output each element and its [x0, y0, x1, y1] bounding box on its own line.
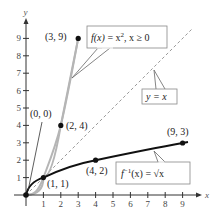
point-1-1: [41, 175, 46, 180]
inverse-function-callout: f−1(x) = √x: [116, 151, 190, 184]
identity-callout-text: y = x: [145, 91, 167, 102]
label-point-0-0: (0, 0): [30, 108, 52, 120]
label-point-9-3: (9, 3): [167, 126, 189, 138]
identity-callout: y = x: [142, 70, 177, 104]
inverse-function-graph: x y 1 2 3 4 5 6 7 8 9 1 2 3: [0, 0, 213, 214]
svg-text:3: 3: [76, 199, 81, 209]
svg-text:5: 5: [111, 199, 116, 209]
label-point-2-4: (2, 4): [66, 120, 88, 132]
svg-text:f(x) = x2, x ≥ 0: f(x) = x2, x ≥ 0: [91, 31, 150, 44]
svg-text:9: 9: [180, 199, 185, 209]
svg-text:8: 8: [163, 199, 168, 209]
y-tick-labels: 1 2 3 4 5 6 7 8 9: [17, 33, 22, 182]
point-0-0: [23, 192, 29, 198]
svg-text:1: 1: [17, 173, 22, 183]
svg-text:1: 1: [41, 199, 46, 209]
point-4-2: [93, 158, 98, 163]
svg-text:8: 8: [17, 51, 22, 61]
svg-text:7: 7: [17, 68, 22, 78]
svg-text:4: 4: [93, 199, 98, 209]
svg-text:4: 4: [17, 120, 22, 130]
svg-text:6: 6: [17, 86, 22, 96]
svg-text:7: 7: [146, 199, 151, 209]
label-point-4-2: (4, 2): [86, 165, 108, 177]
square-function-callout: f(x) = x2, x ≥ 0: [72, 26, 167, 78]
x-tick-labels: 1 2 3 4 5 6 7 8 9: [41, 199, 185, 209]
svg-text:9: 9: [17, 33, 22, 43]
point-9-3: [180, 140, 185, 145]
x-axis-arrow-icon: [196, 193, 202, 198]
svg-text:5: 5: [17, 103, 22, 113]
svg-text:3: 3: [17, 138, 22, 148]
label-point-3-9: (3, 9): [45, 31, 67, 43]
y-axis-arrow-icon: [24, 18, 29, 24]
point-2-4: [58, 123, 63, 128]
svg-text:2: 2: [17, 155, 22, 165]
point-3-9: [76, 36, 81, 41]
x-axis-label: x: [204, 190, 209, 200]
y-axis-label: y: [23, 7, 28, 17]
svg-text:6: 6: [128, 199, 133, 209]
label-point-1-1: (1, 1): [47, 178, 69, 190]
svg-text:2: 2: [59, 199, 64, 209]
